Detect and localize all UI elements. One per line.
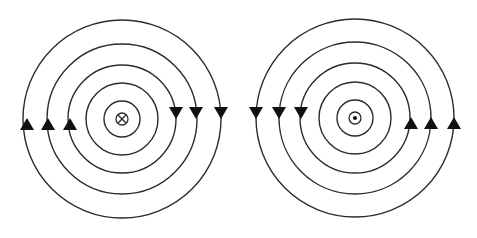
field-system-into-page (20, 20, 228, 218)
diagram-canvas (0, 0, 477, 238)
field-system-out-of-page (249, 19, 461, 217)
arrow-up-icon (404, 117, 418, 129)
field-diagram (0, 0, 477, 238)
arrow-down-icon (294, 107, 308, 119)
arrow-down-icon (272, 107, 286, 119)
arrow-up-icon (424, 117, 438, 129)
arrow-down-icon (214, 107, 228, 119)
dot-icon (353, 116, 357, 120)
arrow-up-icon (447, 117, 461, 129)
arrow-down-icon (189, 107, 203, 119)
arrow-up-icon (20, 118, 34, 130)
arrow-down-icon (169, 107, 183, 119)
arrow-up-icon (41, 118, 55, 130)
arrow-up-icon (63, 118, 77, 130)
arrow-down-icon (249, 107, 263, 119)
